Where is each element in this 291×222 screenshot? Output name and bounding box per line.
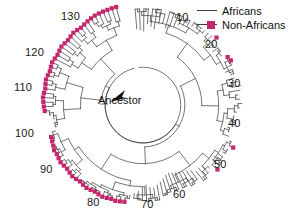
tip-marker-non-african <box>231 145 235 149</box>
phylogenetic-tree-figure: Ancestor 102030405060708090100110120130 … <box>0 0 291 222</box>
legend-item-non-africans: Non-Africans <box>196 18 290 32</box>
tip-marker-non-african <box>229 58 233 62</box>
tip-marker-non-african <box>110 6 114 10</box>
tip-marker-non-african <box>78 179 82 183</box>
tip-marker-non-african <box>43 87 47 91</box>
tip-marker-non-african <box>46 73 50 77</box>
legend: Africans Non-Africans <box>196 4 290 32</box>
tip-marker-non-african <box>114 5 118 9</box>
tip-marker-non-african <box>118 199 122 203</box>
tip-marker-non-african <box>75 28 79 32</box>
legend-label-africans: Africans <box>222 6 262 17</box>
tick-label-90: 90 <box>40 164 53 175</box>
tip-marker-non-african <box>100 195 104 199</box>
tip-marker-non-african <box>44 77 48 81</box>
tip-marker-non-african <box>88 188 92 192</box>
legend-square-icon <box>196 19 218 31</box>
tip-marker-non-african <box>113 199 117 203</box>
tip-marker-non-african <box>71 31 75 35</box>
tick-label-50: 50 <box>214 159 227 170</box>
tip-marker-non-african <box>42 104 46 108</box>
tip-marker-non-african <box>43 82 47 86</box>
tick-label-10: 10 <box>176 12 189 23</box>
tick-label-80: 80 <box>87 197 100 208</box>
tip-marker-non-african <box>93 13 97 17</box>
tick-label-20: 20 <box>205 39 218 50</box>
tip-marker-non-african <box>51 144 55 148</box>
legend-item-africans: Africans <box>196 4 290 18</box>
tip-marker-non-african <box>50 139 54 143</box>
tip-marker-non-african <box>97 11 101 15</box>
tip-marker-non-african <box>105 8 109 12</box>
tip-marker-non-african <box>89 16 93 20</box>
tick-label-30: 30 <box>228 78 241 89</box>
radial-tree-plot <box>0 0 291 222</box>
tip-marker-non-african <box>53 56 57 60</box>
legend-line-icon <box>196 5 218 17</box>
tip-marker-non-african <box>66 38 70 42</box>
tick-label-40: 40 <box>228 118 241 129</box>
tick-label-110: 110 <box>14 82 32 93</box>
tick-label-120: 120 <box>25 47 44 58</box>
legend-label-non-africans: Non-Africans <box>222 20 286 31</box>
tip-marker-non-african <box>55 152 59 156</box>
tip-marker-non-african <box>41 100 45 104</box>
tip-marker-non-african <box>49 135 53 139</box>
tip-marker-non-african <box>122 200 126 204</box>
tip-marker-non-african <box>57 156 61 160</box>
tip-marker-non-african <box>52 148 56 152</box>
tip-marker-non-african <box>68 34 72 38</box>
tip-marker-non-african <box>48 69 52 73</box>
tip-marker-non-african <box>68 170 72 174</box>
tip-marker-non-african <box>93 190 97 194</box>
tip-marker-non-african <box>42 91 46 95</box>
ancestor-label: Ancestor <box>98 95 141 106</box>
tip-marker-non-african <box>57 49 61 53</box>
tip-marker-non-african <box>43 109 47 113</box>
tip-marker-non-african <box>70 174 74 178</box>
tip-marker-non-african <box>105 196 109 200</box>
tip-marker-non-african <box>41 95 45 99</box>
tip-marker-non-african <box>101 9 105 13</box>
tip-marker-non-african <box>59 160 63 164</box>
tip-marker-non-african <box>74 177 78 181</box>
tip-marker-non-african <box>49 65 53 69</box>
tick-label-60: 60 <box>173 189 186 200</box>
tick-label-100: 100 <box>15 128 34 139</box>
tip-marker-non-african <box>109 197 113 201</box>
tip-marker-non-african <box>55 53 59 57</box>
tip-marker-non-african <box>50 60 54 64</box>
tick-label-130: 130 <box>61 11 80 22</box>
tick-label-70: 70 <box>141 199 154 210</box>
